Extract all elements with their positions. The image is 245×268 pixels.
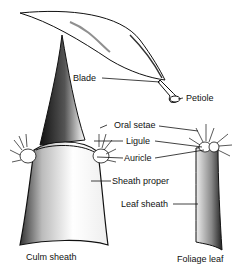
- culm-sheath: [10, 134, 116, 245]
- label-auricle: Auricle: [124, 153, 152, 163]
- foliage-leaf-blade: [20, 11, 180, 102]
- label-culm-sheath: Culm sheath: [26, 252, 77, 262]
- label-petiole: Petiole: [186, 93, 214, 103]
- foliage-leaf-sheath: [189, 124, 232, 250]
- label-oral-setae: Oral setae: [114, 120, 156, 130]
- culm-sheath-blade: [40, 35, 85, 145]
- bamboo-sheath-diagram: [0, 0, 245, 268]
- label-foliage-leaf: Foliage leaf: [177, 254, 224, 264]
- label-ligule: Ligule: [126, 136, 150, 146]
- label-blade: Blade: [73, 73, 96, 83]
- label-sheath-proper: Sheath proper: [112, 176, 169, 186]
- label-leaf-sheath: Leaf sheath: [121, 199, 168, 209]
